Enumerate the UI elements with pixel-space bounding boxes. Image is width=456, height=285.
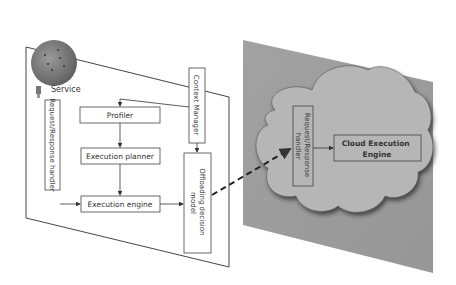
service-label: Service xyxy=(51,85,81,94)
execution-planner-label: Execution planner xyxy=(86,152,155,161)
request-response-handler-label: Request/Response handler xyxy=(48,98,56,191)
profiler-label: Profiler xyxy=(107,111,134,120)
context-manager-label: Context Manager xyxy=(192,75,200,135)
execution-engine-label: Execution engine xyxy=(88,200,153,209)
architecture-diagram: Service Request/Response handler Profile… xyxy=(0,0,456,285)
